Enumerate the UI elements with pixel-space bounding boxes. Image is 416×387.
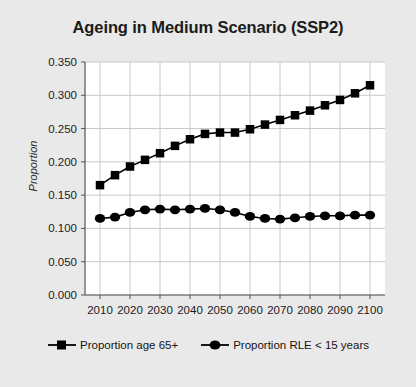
x-axis-tick-label: 2090 [327, 304, 353, 316]
series-marker-circle [230, 208, 240, 217]
y-axis-tick-label: 0.000 [48, 289, 77, 301]
series-marker-circle [365, 211, 375, 220]
series-marker-circle [245, 212, 255, 221]
x-axis-ticks: 2010202020302040205020602070208020902100 [87, 295, 383, 316]
x-axis-tick-label: 2010 [87, 304, 113, 316]
series-marker-circle [305, 212, 315, 221]
series-marker-square [276, 116, 285, 125]
legend-item-label: Proportion RLE < 15 years [233, 339, 369, 351]
series-marker-square [171, 142, 180, 151]
legend-marker-circle-icon [200, 338, 230, 352]
x-axis-tick-label: 2060 [237, 304, 263, 316]
x-axis-tick-label: 2070 [267, 304, 293, 316]
series-marker-square [186, 135, 195, 144]
series-marker-circle [140, 205, 150, 214]
chart-legend: Proportion age 65+Proportion RLE < 15 ye… [0, 338, 416, 352]
series-marker-circle [320, 211, 330, 220]
series-marker-square [216, 128, 225, 137]
legend-item[interactable]: Proportion age 65+ [47, 338, 178, 352]
chart-container: Ageing in Medium Scenario (SSP2) Proport… [0, 0, 416, 387]
legend-item[interactable]: Proportion RLE < 15 years [200, 338, 369, 352]
series-marker-circle [215, 205, 225, 214]
series-marker-square [141, 156, 150, 165]
series-marker-circle [350, 211, 360, 220]
y-axis-tick-label: 0.150 [48, 189, 77, 201]
series-marker-square [246, 125, 255, 134]
series-marker-circle [155, 205, 165, 214]
y-axis-tick-label: 0.350 [48, 56, 77, 68]
series-marker-square [156, 149, 165, 158]
x-axis-tick-label: 2040 [177, 304, 203, 316]
x-axis-tick-label: 2020 [117, 304, 143, 316]
x-axis-tick-label: 2080 [297, 304, 323, 316]
series-marker-square [351, 89, 360, 98]
y-axis-tick-label: 0.250 [48, 123, 77, 135]
series-marker-circle [170, 205, 180, 214]
series-marker-circle [95, 214, 105, 223]
series-marker-square [261, 120, 270, 129]
series-marker-square [111, 171, 120, 180]
series-marker-square [231, 128, 240, 137]
series-marker-circle [125, 208, 135, 217]
chart-plot-area: 0.0000.0500.1000.1500.2000.2500.3000.350… [0, 0, 416, 387]
series-marker-square [306, 106, 315, 115]
x-axis-tick-label: 2100 [357, 304, 383, 316]
series-marker-circle [290, 213, 300, 222]
series-marker-square [201, 130, 210, 139]
y-axis-ticks: 0.0000.0500.1000.1500.2000.2500.3000.350 [48, 56, 85, 301]
legend-item-label: Proportion age 65+ [80, 339, 178, 351]
series-marker-square [336, 96, 345, 105]
series-marker-circle [200, 204, 210, 213]
y-axis-tick-label: 0.100 [48, 222, 77, 234]
y-axis-tick-label: 0.300 [48, 89, 77, 101]
series-marker-square [96, 181, 105, 190]
series-marker-square [366, 81, 375, 90]
y-axis-tick-label: 0.050 [48, 256, 77, 268]
x-axis-tick-label: 2050 [207, 304, 233, 316]
series-marker-square [321, 101, 330, 110]
series-marker-circle [110, 213, 120, 222]
legend-marker-square-icon [47, 338, 77, 352]
series-marker-square [291, 111, 300, 120]
series-marker-circle [275, 215, 285, 224]
series-marker-circle [335, 211, 345, 220]
x-axis-tick-label: 2030 [147, 304, 173, 316]
series-marker-square [126, 162, 135, 171]
series-marker-circle [260, 214, 270, 223]
y-axis-tick-label: 0.200 [48, 156, 77, 168]
series-marker-circle [185, 205, 195, 214]
